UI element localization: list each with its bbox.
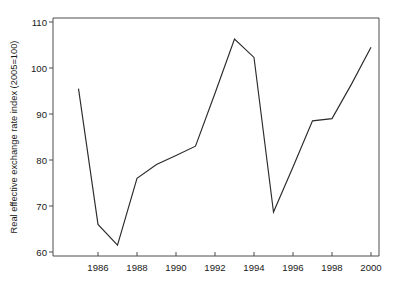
y-tick-label: 80 [36,155,47,166]
x-tick-label: 1998 [321,262,342,273]
y-axis-label: Real effective exchange rate index (2005… [9,41,19,234]
data-series-line [79,39,372,245]
chart-figure: Real effective exchange rate index (2005… [0,0,395,292]
y-tick-label: 100 [31,63,47,74]
y-axis-label-group: Real effective exchange rate index (2005… [9,41,19,234]
x-tick-labels: 1986 1988 1990 1992 1994 1996 1998 2000 [87,262,381,273]
x-tick-label: 2000 [360,262,381,273]
x-tick-label: 1994 [243,262,265,273]
x-tick-label: 1986 [87,262,108,273]
y-tick-marks [49,22,53,252]
x-tick-label: 1990 [165,262,186,273]
plot-frame [53,18,379,256]
x-tick-label: 1988 [126,262,147,273]
y-tick-label: 90 [36,109,47,120]
plot-border [53,18,379,256]
x-tick-label: 1996 [282,262,303,273]
x-tick-marks [98,252,371,256]
y-tick-label: 70 [36,201,47,212]
y-tick-labels: 60 70 80 90 100 110 [31,17,47,258]
line-chart: Real effective exchange rate index (2005… [0,0,395,292]
x-tick-label: 1992 [204,262,225,273]
y-tick-label: 60 [36,247,47,258]
y-tick-label: 110 [32,17,47,28]
